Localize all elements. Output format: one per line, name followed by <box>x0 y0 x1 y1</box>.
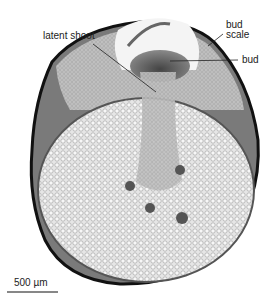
stem-cross-section-micrograph <box>0 0 273 305</box>
label-bud: bud <box>242 55 259 65</box>
scale-bar-label: 500 µm <box>14 278 48 288</box>
label-bud-scale-line2: scale <box>226 30 249 40</box>
label-latent-shoot: latent shoot <box>43 31 95 41</box>
